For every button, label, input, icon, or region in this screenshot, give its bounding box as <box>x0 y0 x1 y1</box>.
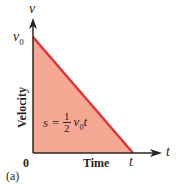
y-axis-title: Velocity <box>15 78 30 138</box>
x-axis-name: t <box>166 144 170 160</box>
y-tick-v0: v0 <box>13 29 24 47</box>
panel-label: (a) <box>6 169 19 184</box>
velocity-time-diagram: v v0 Velocity 0 Time t t (a) s = 1 2 v0t <box>0 0 181 184</box>
y-axis-name: v <box>29 1 35 17</box>
formula-rhs: v0t <box>74 114 87 132</box>
origin-label: 0 <box>23 156 29 171</box>
formula-lhs: s = <box>43 115 60 131</box>
fraction: 1 2 <box>63 111 71 134</box>
area-formula: s = 1 2 v0t <box>43 111 87 134</box>
subscript: 0 <box>19 37 24 47</box>
fraction-denominator: 2 <box>64 123 70 134</box>
x-axis-title: Time <box>83 156 109 171</box>
x-tick-t: t <box>129 154 133 170</box>
t-symbol: t <box>83 114 87 129</box>
